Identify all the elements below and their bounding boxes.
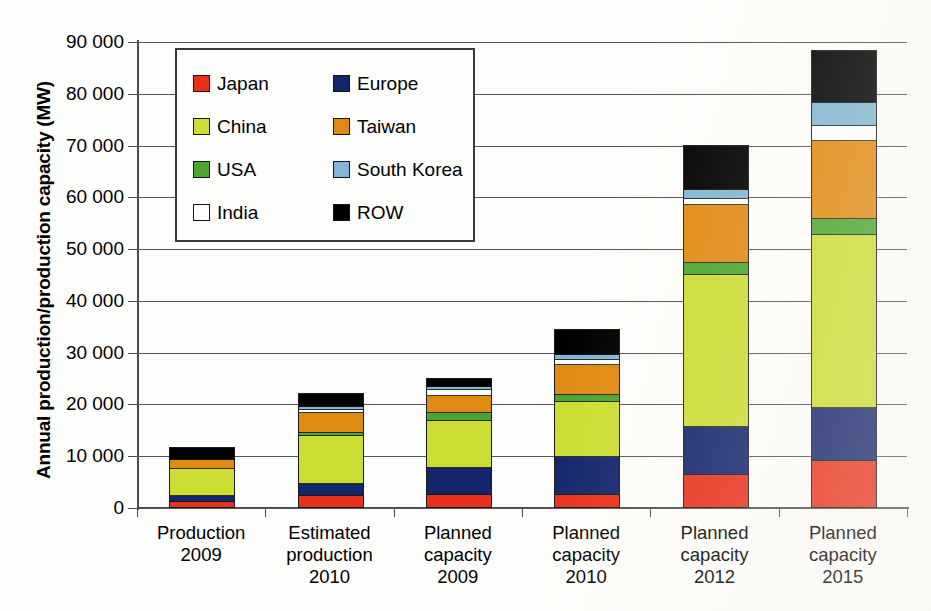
- bar-segment-usa[interactable]: [684, 263, 748, 275]
- y-tick-mark: [128, 146, 137, 147]
- bar-segment-china[interactable]: [812, 235, 876, 408]
- bar-segment-row[interactable]: [427, 379, 491, 387]
- bar-segment-china[interactable]: [427, 421, 491, 468]
- bar-4[interactable]: [683, 145, 749, 508]
- bar-segment-china[interactable]: [555, 402, 619, 457]
- bar-segment-south-korea[interactable]: [812, 103, 876, 127]
- x-tick-mark: [265, 508, 266, 517]
- gridline-20000: [137, 404, 907, 405]
- y-tick-mark: [128, 94, 137, 95]
- x-tick-mark: [650, 508, 651, 517]
- y-tick-mark: [128, 197, 137, 198]
- x-axis-label-line: capacity: [389, 544, 527, 566]
- bar-segment-europe[interactable]: [555, 457, 619, 494]
- bar-2[interactable]: [426, 378, 492, 508]
- bar-segment-japan[interactable]: [684, 475, 748, 507]
- x-axis-label-3: Plannedcapacity2010: [517, 522, 655, 588]
- legend-item-europe[interactable]: Europe: [333, 62, 493, 105]
- y-tick-label: 70 000: [66, 135, 124, 157]
- y-tick-label: 40 000: [66, 290, 124, 312]
- bar-3[interactable]: [554, 329, 620, 508]
- bar-segment-europe[interactable]: [684, 427, 748, 475]
- chart-legend: JapanEuropeChinaTaiwanUSASouth KoreaIndi…: [175, 48, 475, 242]
- legend-label: China: [217, 116, 267, 138]
- x-axis-label-5: Plannedcapacity2015: [774, 522, 912, 588]
- legend-item-japan[interactable]: Japan: [193, 62, 333, 105]
- bar-segment-usa[interactable]: [812, 219, 876, 235]
- legend-swatch-icon: [193, 204, 210, 221]
- bar-segment-taiwan[interactable]: [427, 396, 491, 413]
- bar-segment-china[interactable]: [299, 436, 363, 484]
- bar-segment-china[interactable]: [170, 469, 234, 496]
- bar-5[interactable]: [811, 50, 877, 508]
- bar-segment-row[interactable]: [812, 51, 876, 102]
- y-tick-label: 90 000: [66, 31, 124, 53]
- y-tick-mark: [128, 404, 137, 405]
- legend-item-usa[interactable]: USA: [193, 148, 333, 191]
- y-tick-label: 20 000: [66, 393, 124, 415]
- legend-label: USA: [217, 159, 256, 181]
- bar-segment-taiwan[interactable]: [555, 365, 619, 395]
- legend-label: South Korea: [357, 159, 463, 181]
- legend-item-south-korea[interactable]: South Korea: [333, 148, 493, 191]
- legend-label: India: [217, 202, 258, 224]
- bar-segment-row[interactable]: [684, 146, 748, 191]
- x-axis-label-line: 2009: [132, 544, 270, 566]
- y-axis-title: Annual production/production capacity (M…: [33, 45, 55, 515]
- bar-segment-china[interactable]: [684, 275, 748, 427]
- x-axis-label-line: 2015: [774, 566, 912, 588]
- y-tick-mark: [128, 508, 137, 509]
- x-axis-label-line: Planned: [774, 522, 912, 544]
- gridline-90000: [137, 42, 907, 43]
- legend-item-row[interactable]: ROW: [333, 191, 493, 234]
- x-tick-mark: [522, 508, 523, 517]
- bar-segment-taiwan[interactable]: [299, 413, 363, 433]
- x-axis-label-2: Plannedcapacity2009: [389, 522, 527, 588]
- x-tick-mark: [779, 508, 780, 517]
- x-axis-label-line: Planned: [646, 522, 784, 544]
- bar-segment-taiwan[interactable]: [812, 141, 876, 219]
- bar-segment-japan[interactable]: [555, 495, 619, 507]
- bar-segment-taiwan[interactable]: [170, 460, 234, 469]
- bar-segment-japan[interactable]: [170, 502, 234, 507]
- bar-segment-india[interactable]: [812, 126, 876, 141]
- bar-segment-europe[interactable]: [812, 408, 876, 461]
- bar-segment-japan[interactable]: [427, 495, 491, 507]
- x-axis-label-line: Planned: [389, 522, 527, 544]
- x-tick-mark: [394, 508, 395, 517]
- bar-1[interactable]: [298, 393, 364, 508]
- bar-segment-usa[interactable]: [555, 395, 619, 402]
- bar-0[interactable]: [169, 447, 235, 508]
- legend-item-taiwan[interactable]: Taiwan: [333, 105, 493, 148]
- bar-segment-row[interactable]: [299, 394, 363, 406]
- y-tick-label: 0: [113, 497, 124, 519]
- x-axis-label-line: Production: [132, 522, 270, 544]
- x-axis-label-line: capacity: [774, 544, 912, 566]
- legend-label: Japan: [217, 73, 269, 95]
- x-axis-label-1: Estimatedproduction2010: [261, 522, 399, 588]
- bar-segment-south-korea[interactable]: [684, 190, 748, 199]
- y-tick-mark: [128, 456, 137, 457]
- bar-segment-usa[interactable]: [427, 413, 491, 421]
- gridline-40000: [137, 301, 907, 302]
- legend-item-india[interactable]: India: [193, 191, 333, 234]
- legend-label: Europe: [357, 73, 418, 95]
- y-tick-mark: [128, 301, 137, 302]
- bar-segment-japan[interactable]: [812, 461, 876, 507]
- y-tick-label: 80 000: [66, 83, 124, 105]
- legend-item-china[interactable]: China: [193, 105, 333, 148]
- x-axis-label-line: Estimated: [261, 522, 399, 544]
- bar-segment-japan[interactable]: [299, 496, 363, 507]
- legend-swatch-icon: [193, 118, 210, 135]
- legend-label: ROW: [357, 202, 403, 224]
- legend-label: Taiwan: [357, 116, 416, 138]
- bar-segment-row[interactable]: [170, 448, 234, 460]
- bar-segment-taiwan[interactable]: [684, 205, 748, 263]
- bar-segment-row[interactable]: [555, 330, 619, 355]
- legend-swatch-icon: [333, 75, 350, 92]
- bar-segment-europe[interactable]: [427, 468, 491, 495]
- gridline-30000: [137, 353, 907, 354]
- x-axis-label-line: Planned: [517, 522, 655, 544]
- bar-segment-europe[interactable]: [299, 484, 363, 496]
- legend-swatch-icon: [333, 161, 350, 178]
